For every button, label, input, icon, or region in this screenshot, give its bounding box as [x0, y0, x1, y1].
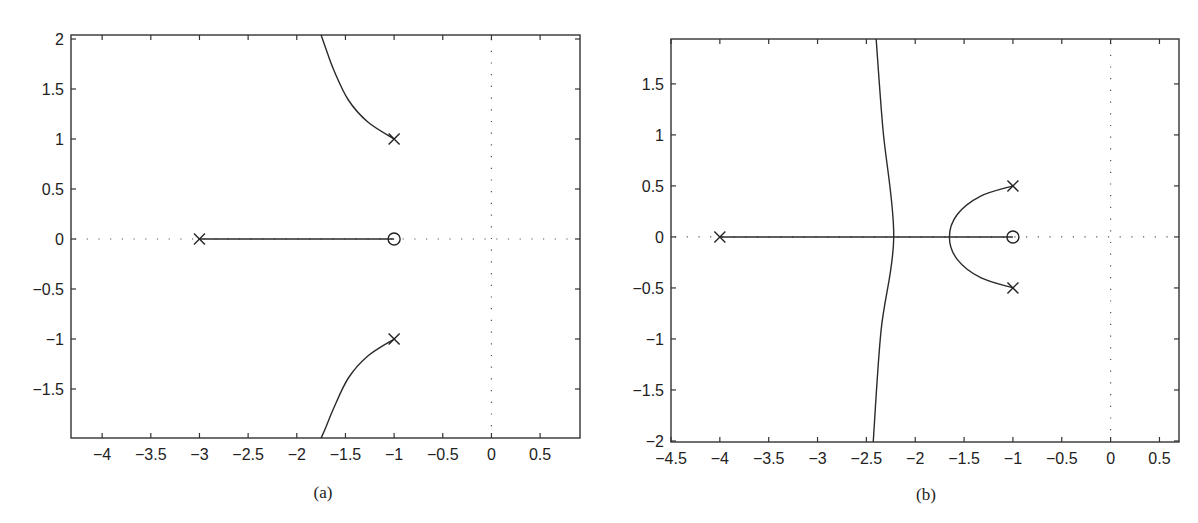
y-tick-label: 0	[655, 229, 664, 246]
y-tick-label: −0.5	[632, 280, 664, 297]
plot-frame	[71, 35, 580, 438]
y-tick-label: 2	[55, 31, 64, 48]
caption-a: (a)	[314, 483, 333, 502]
x-tick-label: −1	[1004, 450, 1022, 467]
x-tick-label: −0.5	[1046, 450, 1078, 467]
y-tick-label: −1	[646, 331, 664, 348]
x-tick-label: −2	[288, 446, 306, 463]
locus-asymptotic-branch	[873, 39, 894, 442]
pole-x-icon	[389, 134, 400, 145]
x-tick-label: −1.5	[330, 446, 362, 463]
y-tick-label: 1	[655, 127, 664, 144]
y-tick-label: 0	[55, 231, 64, 248]
x-tick-label: 0	[1106, 450, 1115, 467]
locus-upper-branch	[321, 35, 394, 139]
x-tick-label: −4	[93, 446, 111, 463]
x-tick-label: −3.5	[753, 450, 785, 467]
x-tick-label: −2	[906, 450, 924, 467]
x-tick-label: 0.5	[529, 446, 551, 463]
x-tick-label: 0.5	[1148, 450, 1170, 467]
x-tick-label: −1	[385, 446, 403, 463]
y-tick-label: −1.5	[632, 382, 664, 399]
x-tick-label: −3.5	[135, 446, 167, 463]
caption-b: (b)	[916, 485, 936, 504]
y-tick-label: 0.5	[642, 178, 664, 195]
x-tick-label: −2.5	[232, 446, 264, 463]
locus-lower-branch	[321, 339, 394, 438]
y-tick-label: −1	[46, 331, 64, 348]
x-tick-label: −1.5	[948, 450, 980, 467]
pole-x-icon	[1007, 180, 1018, 191]
x-tick-label: −2.5	[851, 450, 883, 467]
root-locus-plot-a: −4−3.5−3−2.5−2−1.5−1−0.500.521.510.50−0.…	[32, 31, 580, 463]
x-tick-label: −3	[808, 450, 826, 467]
y-tick-label: −0.5	[32, 281, 64, 298]
y-tick-label: −1.5	[32, 381, 64, 398]
y-tick-label: 1	[55, 131, 64, 148]
x-tick-label: −4	[711, 450, 729, 467]
x-tick-label: −3	[190, 446, 208, 463]
x-tick-label: 0	[487, 446, 496, 463]
x-tick-label: −4.5	[655, 450, 687, 467]
pole-x-icon	[389, 334, 400, 345]
y-tick-label: 1.5	[642, 76, 664, 93]
x-tick-label: −0.5	[427, 446, 459, 463]
pole-x-icon	[1007, 282, 1018, 293]
figure-canvas: −4−3.5−3−2.5−2−1.5−1−0.500.521.510.50−0.…	[0, 0, 1198, 523]
y-tick-label: 0.5	[42, 181, 64, 198]
plot-frame	[671, 39, 1179, 442]
y-tick-label: 1.5	[42, 81, 64, 98]
y-tick-label: −2	[646, 433, 664, 450]
root-locus-plot-b: −4.5−4−3.5−3−2.5−2−1.5−1−0.500.51.510.50…	[632, 39, 1179, 467]
